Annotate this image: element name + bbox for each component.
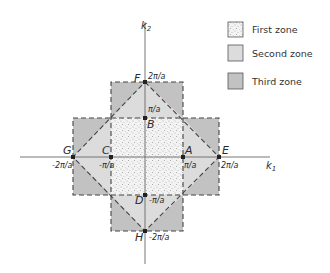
point-A-label: A — [184, 144, 193, 157]
point-A-value: π/a — [184, 161, 197, 170]
point-D-label: D — [135, 194, 143, 207]
point-F-label: F — [134, 72, 141, 85]
point-B-value: π/a — [148, 105, 161, 114]
point-E-label: E — [222, 144, 229, 157]
point-E-marker — [217, 155, 221, 159]
brillouin-zone-diagram: k2 k1 F B A E C G D H 2π/a π/a π/a 2π/a … — [0, 0, 330, 273]
k2-axis-label: k2 — [141, 20, 152, 33]
point-G-marker — [71, 155, 75, 159]
legend-label-third-zone: Third zone — [251, 76, 302, 87]
legend-swatch-second-zone — [228, 45, 243, 61]
k1-axis-label: k1 — [266, 160, 276, 173]
point-C-value: -π/a — [99, 161, 114, 170]
point-G-label: G — [63, 144, 72, 157]
point-G-value: -2π/a — [52, 161, 72, 170]
point-F-marker — [143, 80, 147, 84]
legend: First zone Second zone Third zone — [228, 22, 313, 89]
point-H-label: H — [135, 231, 143, 244]
point-D-value: -π/a — [149, 196, 164, 205]
point-E-value: 2π/a — [221, 161, 239, 170]
point-D-marker — [143, 193, 147, 197]
point-H-marker — [143, 229, 147, 233]
point-H-value: -2π/a — [149, 233, 169, 242]
legend-label-first-zone: First zone — [252, 24, 298, 35]
point-F-value: 2π/a — [148, 72, 166, 81]
legend-swatch-first-zone — [228, 22, 243, 37]
point-C-label: C — [102, 144, 110, 157]
legend-label-second-zone: Second zone — [252, 48, 313, 59]
point-B-label: B — [147, 118, 155, 131]
legend-swatch-third-zone — [228, 73, 243, 89]
